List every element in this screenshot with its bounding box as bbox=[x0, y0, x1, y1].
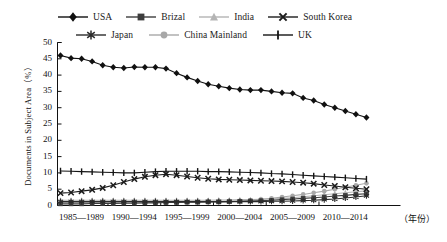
data-point-marker bbox=[321, 101, 327, 107]
data-point-marker bbox=[311, 97, 317, 103]
data-point-marker bbox=[226, 85, 232, 91]
x-tick-label: 1995—1999 bbox=[159, 212, 215, 222]
data-point-marker bbox=[110, 64, 116, 70]
plot-area bbox=[0, 0, 447, 242]
data-point-marker bbox=[353, 111, 359, 117]
data-point-marker bbox=[174, 70, 180, 76]
data-point-marker bbox=[290, 90, 296, 96]
chart-container: USA Brizal India bbox=[0, 0, 447, 242]
data-point-marker bbox=[258, 87, 264, 93]
data-point-marker bbox=[131, 64, 137, 70]
x-tick-label: 2000—2004 bbox=[212, 212, 268, 222]
y-tick-label: 0 bbox=[32, 200, 52, 210]
data-point-marker bbox=[301, 192, 306, 197]
data-point-marker bbox=[205, 81, 211, 87]
x-axis-unit-label: （年份） bbox=[399, 212, 435, 225]
data-point-marker bbox=[322, 189, 327, 194]
y-tick-label: 50 bbox=[32, 37, 52, 47]
y-tick-label: 45 bbox=[32, 53, 52, 63]
data-point-marker bbox=[247, 87, 253, 93]
x-tick-label: 1985—1989 bbox=[54, 212, 110, 222]
x-tick-label: 2010—2014 bbox=[317, 212, 373, 222]
data-point-marker bbox=[163, 65, 169, 71]
data-point-marker bbox=[216, 83, 222, 89]
x-tick-label: 2005—2009 bbox=[265, 212, 321, 222]
y-ticks bbox=[58, 43, 62, 206]
y-tick-label: 5 bbox=[32, 183, 52, 193]
x-tick-label: 1990—1994 bbox=[106, 212, 162, 222]
data-point-marker bbox=[311, 190, 316, 195]
y-tick-label: 15 bbox=[32, 151, 52, 161]
data-point-marker bbox=[363, 114, 369, 120]
y-tick-label: 25 bbox=[32, 118, 52, 128]
data-point-marker bbox=[58, 52, 64, 58]
data-point-marker bbox=[342, 108, 348, 114]
y-tick-label: 35 bbox=[32, 85, 52, 95]
series-usa bbox=[58, 52, 370, 120]
y-tick-label: 40 bbox=[32, 69, 52, 79]
data-point-marker bbox=[152, 64, 158, 70]
data-point-marker bbox=[89, 58, 95, 64]
data-point-marker bbox=[237, 86, 243, 92]
data-point-marker bbox=[300, 95, 306, 101]
data-point-marker bbox=[142, 64, 148, 70]
series-uk bbox=[61, 168, 367, 183]
data-point-marker bbox=[269, 88, 275, 94]
y-tick-label: 10 bbox=[32, 167, 52, 177]
data-point-marker bbox=[121, 65, 127, 71]
y-tick-label: 30 bbox=[32, 102, 52, 112]
data-point-marker bbox=[100, 62, 106, 68]
data-point-marker bbox=[68, 55, 74, 61]
data-point-marker bbox=[79, 56, 85, 62]
data-point-marker bbox=[279, 90, 285, 96]
y-tick-label: 20 bbox=[32, 134, 52, 144]
data-point-marker bbox=[195, 78, 201, 84]
data-point-marker bbox=[184, 74, 190, 80]
data-point-marker bbox=[332, 105, 338, 111]
